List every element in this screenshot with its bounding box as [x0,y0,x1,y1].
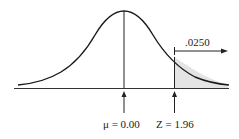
z-label: Z = 1.96 [156,119,194,130]
tail-arrow-icon [221,49,228,54]
normal-curve-diagram: .0250 μ = 0.00 Z = 1.96 [0,0,239,139]
mean-arrow-icon [122,91,127,97]
z-arrow-icon [172,91,177,97]
mean-label: μ = 0.00 [103,119,140,130]
tail-area-label: .0250 [185,37,210,48]
